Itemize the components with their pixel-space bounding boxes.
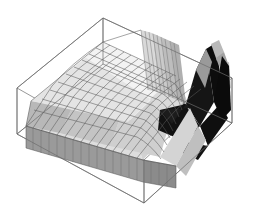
skirt-front-right bbox=[143, 160, 176, 188]
surface-plot-figure bbox=[0, 0, 260, 218]
surface-mesh bbox=[26, 30, 231, 188]
surface-plot-canvas bbox=[0, 0, 260, 218]
